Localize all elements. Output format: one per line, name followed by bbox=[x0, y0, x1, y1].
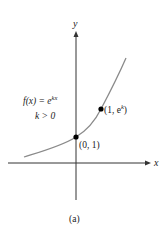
y-axis-arrow-icon bbox=[74, 31, 79, 37]
point-0-1-label: (0, 1) bbox=[79, 140, 100, 151]
figure-caption: (a) bbox=[69, 214, 80, 225]
exponential-graph: y x (0, 1) (1, ek) f(x) = ekx k > 0 (a) bbox=[0, 0, 168, 233]
x-axis-label: x bbox=[153, 157, 159, 168]
x-axis-arrow-icon bbox=[145, 161, 151, 166]
condition-label: k > 0 bbox=[35, 111, 55, 121]
point-0-1 bbox=[73, 134, 78, 139]
point-1-ek-label: (1, ek) bbox=[104, 103, 127, 116]
y-axis-label: y bbox=[72, 18, 78, 29]
function-label: f(x) = ekx bbox=[23, 94, 57, 107]
point-1-ek bbox=[98, 106, 103, 111]
